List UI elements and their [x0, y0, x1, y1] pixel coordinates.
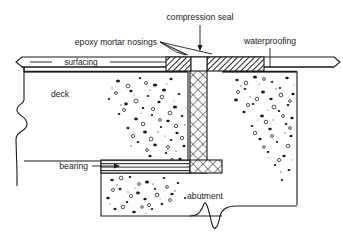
epoxy-mortar-nosing-right [207, 57, 264, 71]
label-epoxy-mortar-nosings: epoxy mortar nosings [75, 37, 157, 47]
bearing-block [101, 160, 191, 173]
bridge-joint-diagram: compression seal epoxy mortar nosings wa… [0, 0, 343, 246]
label-compression-seal: compression seal [167, 12, 234, 22]
label-abutment: abutment [187, 191, 223, 201]
label-waterproofing: waterproofing [243, 36, 296, 46]
epoxy-mortar-nosing-left [166, 57, 191, 71]
compression-seal [191, 57, 207, 71]
label-deck: deck [51, 89, 70, 99]
label-surfacing: surfacing [64, 58, 98, 67]
label-bearing: bearing [59, 161, 88, 171]
